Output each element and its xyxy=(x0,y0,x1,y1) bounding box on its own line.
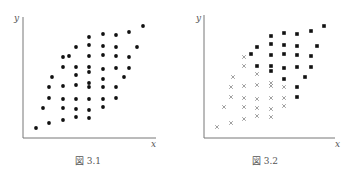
dot-marker xyxy=(141,24,145,28)
dot-marker xyxy=(114,54,118,58)
cross-marker xyxy=(231,75,235,79)
cross-marker xyxy=(269,107,273,111)
dot-marker xyxy=(87,54,91,58)
dot-marker xyxy=(127,66,131,70)
square-marker xyxy=(255,45,259,49)
square-marker xyxy=(295,53,299,57)
cross-marker xyxy=(269,96,273,100)
square-marker xyxy=(295,65,299,69)
square-marker xyxy=(309,54,313,58)
dot-marker xyxy=(61,118,65,122)
dot-marker xyxy=(74,83,78,87)
cross-marker xyxy=(269,84,273,88)
square-marker xyxy=(295,95,299,99)
dot-marker xyxy=(114,96,118,100)
cross-marker xyxy=(255,83,259,87)
square-marker xyxy=(322,24,326,28)
cross-marker xyxy=(242,84,246,88)
dot-marker xyxy=(87,70,91,74)
dot-marker xyxy=(87,97,91,101)
cross-marker xyxy=(242,105,246,109)
dot-marker xyxy=(74,73,78,77)
square-marker xyxy=(269,69,273,73)
square-marker xyxy=(295,32,299,36)
dot-marker xyxy=(74,97,78,101)
fig1-xlabel: x xyxy=(151,139,156,149)
square-marker xyxy=(282,31,286,35)
dot-marker xyxy=(34,126,38,130)
cross-marker xyxy=(282,104,286,108)
dot-marker xyxy=(114,33,118,37)
dot-marker xyxy=(47,96,51,100)
dot-marker xyxy=(74,107,78,111)
dot-marker xyxy=(87,85,91,89)
dot-marker xyxy=(74,115,78,119)
square-marker xyxy=(309,29,313,33)
dot-marker xyxy=(127,55,131,59)
square-marker xyxy=(282,43,286,47)
dot-marker xyxy=(74,65,78,69)
square-marker xyxy=(295,44,299,48)
cross-marker xyxy=(229,95,233,99)
square-marker xyxy=(309,65,313,69)
dot-marker xyxy=(87,43,91,47)
cross-marker xyxy=(242,64,246,68)
square-marker xyxy=(282,52,286,56)
square-marker xyxy=(295,85,299,89)
fig1-ylabel: y xyxy=(14,13,19,23)
dot-marker xyxy=(114,85,118,89)
square-marker xyxy=(269,42,273,46)
cross-marker xyxy=(255,114,259,118)
cross-marker xyxy=(215,125,219,129)
fig2-xlabel: x xyxy=(335,139,340,149)
dot-marker xyxy=(87,35,91,39)
dot-marker xyxy=(101,32,105,36)
dot-marker xyxy=(135,45,139,49)
square-marker xyxy=(269,53,273,57)
dot-marker xyxy=(101,85,105,89)
dot-marker xyxy=(61,97,65,101)
dot-marker xyxy=(101,77,105,81)
square-marker xyxy=(269,64,273,68)
dot-marker xyxy=(101,44,105,48)
cross-marker xyxy=(222,105,226,109)
dot-marker xyxy=(101,97,105,101)
fig2-caption: 図 3.2 xyxy=(252,154,278,167)
dot-marker xyxy=(61,65,65,69)
fig2-ylabel: y xyxy=(196,13,201,23)
dot-marker xyxy=(114,45,118,49)
dot-marker xyxy=(47,85,51,89)
dot-marker xyxy=(61,84,65,88)
dot-marker xyxy=(122,75,126,79)
dot-marker xyxy=(50,75,54,79)
dot-marker xyxy=(114,66,118,70)
dot-marker xyxy=(61,106,65,110)
dot-marker xyxy=(67,54,71,58)
square-marker xyxy=(282,77,286,81)
cross-marker xyxy=(282,85,286,89)
cross-marker xyxy=(282,96,286,100)
cross-marker xyxy=(255,72,259,76)
dot-marker xyxy=(87,108,91,112)
square-marker xyxy=(269,34,273,38)
cross-marker xyxy=(269,115,273,119)
dot-marker xyxy=(127,30,131,34)
cross-marker xyxy=(242,96,246,100)
cross-marker xyxy=(255,97,259,101)
cross-marker xyxy=(242,55,246,59)
square-marker xyxy=(249,52,253,56)
cross-marker xyxy=(255,106,259,110)
square-marker xyxy=(315,44,319,48)
dot-marker xyxy=(87,116,91,120)
dot-marker xyxy=(41,106,45,110)
cross-marker xyxy=(229,85,233,89)
dot-marker xyxy=(47,121,51,125)
dot-marker xyxy=(101,67,105,71)
scatter-figures xyxy=(0,0,356,172)
cross-marker xyxy=(229,121,233,125)
dot-marker xyxy=(101,105,105,109)
fig1-caption: 図 3.1 xyxy=(75,154,101,167)
dot-marker xyxy=(61,55,65,59)
square-marker xyxy=(255,64,259,68)
dot-marker xyxy=(87,81,91,85)
